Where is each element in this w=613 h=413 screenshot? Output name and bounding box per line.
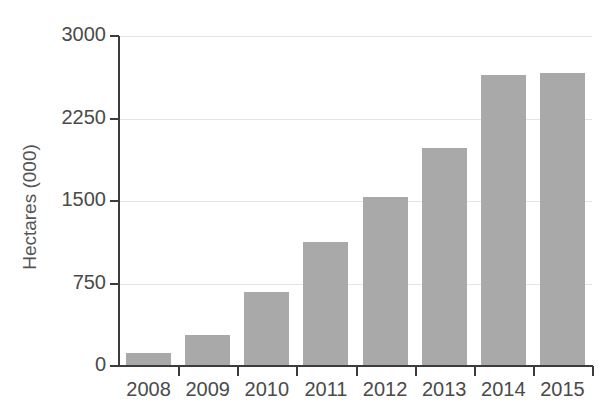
x-axis-tick-mark [592, 366, 594, 376]
x-axis-tick-mark [356, 366, 358, 376]
bar-2010 [244, 292, 289, 366]
gridline [119, 36, 592, 37]
y-axis-tick-mark [110, 365, 119, 367]
x-axis-tick-mark [178, 366, 180, 376]
bar-2015 [540, 73, 585, 366]
bar-chart: Hectares (000) 0750150022503000 20082009… [0, 0, 613, 413]
bar-2012 [363, 197, 408, 366]
y-axis-tick-label: 1500 [36, 188, 106, 211]
x-axis-tick-mark [415, 366, 417, 376]
x-axis-tick-mark [474, 366, 476, 376]
y-axis-tick-label: 750 [36, 271, 106, 294]
y-axis-tick-mark [110, 283, 119, 285]
y-axis-tick-label: 0 [36, 353, 106, 376]
plot-area [119, 36, 592, 366]
bar-2009 [185, 335, 230, 366]
x-axis-tick-label-2015: 2015 [527, 378, 597, 401]
bar-2013 [422, 148, 467, 366]
bar-2011 [303, 242, 348, 366]
x-axis-tick-mark [296, 366, 298, 376]
bar-2014 [481, 75, 526, 367]
x-axis-tick-mark [533, 366, 535, 376]
x-axis-tick-mark [237, 366, 239, 376]
y-axis-tick-mark [110, 35, 119, 37]
y-axis-tick-mark [110, 118, 119, 120]
y-axis-tick-label: 2250 [36, 106, 106, 129]
y-axis-tick-mark [110, 200, 119, 202]
y-axis-tick-label: 3000 [36, 23, 106, 46]
